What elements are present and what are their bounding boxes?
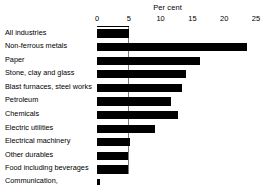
bar-row-label: Petroleum — [5, 96, 93, 104]
bar-row: Non-ferrous metals — [0, 42, 273, 56]
bar-row: Paper — [0, 55, 273, 69]
bar-row-label: Blast furnaces, steel works — [5, 83, 93, 91]
bar — [97, 179, 100, 185]
bar-row-label: Non-ferrous metals — [5, 42, 93, 50]
x-tick-label-25: 25 — [252, 14, 260, 23]
bar-row-label: Communication,commercial and other — [5, 177, 93, 185]
bar — [97, 125, 155, 133]
bar-chart: Per cent 0510152025 All industriesNon-fe… — [0, 0, 273, 185]
x-tick-label-5: 5 — [127, 14, 131, 23]
axis-title: Per cent — [0, 3, 273, 12]
x-tick-label-15: 15 — [188, 14, 196, 23]
bar-row-label: Electrical machinery — [5, 137, 93, 145]
bar-row: Communication,commercial and other — [0, 178, 273, 185]
x-axis-tick-labels: 0510152025 — [0, 14, 273, 26]
bar — [97, 152, 128, 160]
bar-row-label: Stone, clay and glass — [5, 69, 93, 77]
bar-row: Petroleum — [0, 96, 273, 110]
bar-row-label: Chemicals — [5, 110, 93, 118]
bar-row: Blast furnaces, steel works — [0, 82, 273, 96]
bar-row-label: Food including beverages — [5, 164, 93, 172]
x-tick-label-10: 10 — [156, 14, 164, 23]
bar-row: Electrical machinery — [0, 137, 273, 151]
axis-rule — [97, 26, 129, 27]
bar-row-label: Paper — [5, 56, 93, 64]
bar — [97, 57, 200, 65]
bar-row: Chemicals — [0, 110, 273, 124]
x-tick-label-0: 0 — [95, 14, 99, 23]
bar-row-label: Electric utilities — [5, 124, 93, 132]
bar-row-label: Other durables — [5, 151, 93, 159]
bar-row: All industries — [0, 28, 273, 42]
bar-rows: All industriesNon-ferrous metalsPaperSto… — [0, 28, 273, 185]
bar — [97, 29, 129, 37]
bar — [97, 84, 182, 92]
bar-row: Electric utilities — [0, 123, 273, 137]
bar-row-label: All industries — [5, 29, 93, 37]
bar — [97, 138, 130, 146]
bar-row: Stone, clay and glass — [0, 69, 273, 83]
bar-row: Other durables — [0, 150, 273, 164]
x-tick-label-20: 20 — [220, 14, 228, 23]
bar — [97, 111, 178, 119]
bar — [97, 43, 247, 51]
bar — [97, 165, 128, 173]
bar — [97, 70, 186, 78]
bar — [97, 97, 171, 105]
